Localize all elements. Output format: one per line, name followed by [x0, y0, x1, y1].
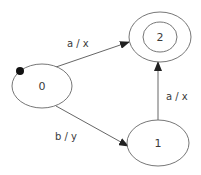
transition-0-to-1: b / y [55, 106, 128, 146]
state-1: 1 [127, 120, 189, 166]
state-label-1: 1 [155, 137, 162, 150]
state-label-2: 2 [157, 31, 164, 44]
state-2: 2 [129, 12, 191, 62]
state-machine-diagram: a / x b / y a / x 0 2 1 [0, 0, 201, 175]
transition-0-to-2: a / x [56, 38, 129, 67]
transition-label-0-to-1: b / y [55, 131, 77, 142]
transition-1-to-2: a / x [158, 62, 188, 120]
transition-label-1-to-2: a / x [166, 91, 188, 102]
state-0: 0 [12, 64, 72, 108]
state-label-0: 0 [39, 80, 46, 93]
transition-label-0-to-2: a / x [67, 38, 89, 49]
initial-state-marker-icon [16, 67, 24, 75]
